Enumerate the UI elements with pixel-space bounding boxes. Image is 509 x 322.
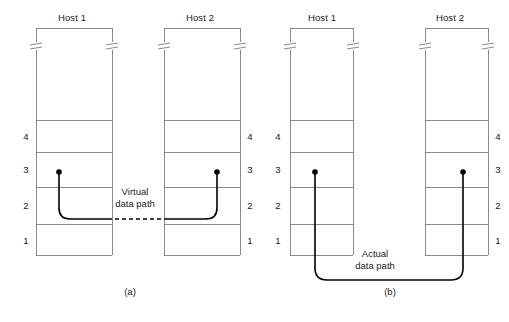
break-mark-b1-left xyxy=(284,43,296,49)
host-stack-b1 xyxy=(284,28,359,255)
virtual-path-curve-right xyxy=(168,172,217,219)
break-mark-b2-right xyxy=(482,43,494,49)
host-stack-a1 xyxy=(30,28,118,255)
actual-path-curve xyxy=(315,172,463,280)
endpoint-dot-a2 xyxy=(214,169,220,175)
protocol-layer-figure: Host 1 Host 2 Host 1 Host 2 4 3 2 1 4 3 … xyxy=(0,0,509,322)
figure-canvas xyxy=(0,0,509,322)
break-mark-b1-right xyxy=(347,43,359,49)
break-mark-a1-right xyxy=(106,43,118,49)
host-stack-a2 xyxy=(158,28,246,255)
host-stack-b2 xyxy=(419,28,494,255)
endpoint-dot-b1 xyxy=(312,169,318,175)
endpoint-dot-a1 xyxy=(56,169,62,175)
break-mark-a1-left xyxy=(30,43,42,49)
virtual-path-curve-left xyxy=(59,172,108,219)
break-mark-a2-left xyxy=(158,43,170,49)
endpoint-dot-b2 xyxy=(460,169,466,175)
break-mark-a2-right xyxy=(234,43,246,49)
break-mark-b2-left xyxy=(419,43,431,49)
